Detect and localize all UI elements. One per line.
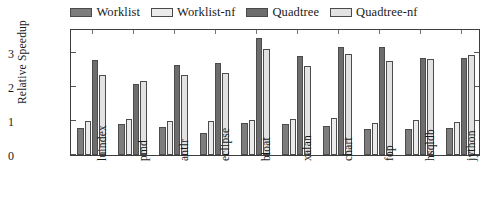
legend-swatch-icon [151,8,173,17]
y-axis-tick [71,52,76,53]
plot-area [71,30,479,155]
bar-antlr-worklist [159,127,166,155]
bar-jython-worklist [446,128,453,155]
x-axis-tick-label: antlr [178,139,190,161]
x-axis-tick-label: chart [342,137,354,161]
x-axis-tick-label: eclipse [219,128,231,161]
bar-eclipse-worklist-nf [208,121,215,155]
y-axis-tick [474,86,479,87]
x-axis-tick [379,30,380,34]
x-axis-tick [461,30,462,34]
bar-luindex-worklist [77,128,84,155]
x-axis-tick-label: bloat [260,137,272,161]
bar-fop-worklist [364,129,371,155]
bar-eclipse-worklist [200,133,207,155]
x-axis-tick [174,30,175,34]
bar-fop-worklist-nf [372,123,379,155]
x-axis-tick [420,30,421,34]
y-axis-tick [71,154,76,155]
bar-chart-worklist-nf [331,118,338,155]
legend-entry: Quadtree [246,6,319,19]
x-axis-tick [338,30,339,34]
bar-xalan-worklist [282,124,289,155]
bar-pmd-worklist-nf [126,119,133,155]
x-axis-tick-label: jython [465,130,477,161]
y-axis-tick [474,52,479,53]
bar-bloat-worklist-nf [249,120,256,155]
y-axis-title: Relative Speedup [16,7,28,117]
y-axis-tick-label: 0 [0,150,14,162]
legend-entry: Worklist [70,6,140,19]
y-axis-tick-label: 1 [0,116,14,128]
bar-pmd-worklist [118,124,125,155]
x-axis-tick-label: hsqldb [424,129,436,161]
bar-xalan-worklist-nf [290,119,297,155]
x-axis-tick-label: fop [383,145,395,161]
y-axis-tick-label: 2 [0,82,14,94]
legend-swatch-icon [330,8,352,17]
x-axis-tick-label: xalan [301,135,313,161]
y-axis-tick [474,120,479,121]
x-axis-tick-label: luindex [96,125,108,161]
x-axis-tick [215,30,216,34]
y-axis-tick-label: 3 [0,48,14,60]
legend-entry: Quadtree-nf [330,6,417,19]
y-axis-tick [71,86,76,87]
x-axis-tick [256,30,257,34]
x-axis-tick [133,30,134,34]
legend-entry: Worklist-nf [151,6,235,19]
y-axis-tick [71,120,76,121]
bar-hsqldb-worklist-nf [413,120,420,155]
bar-luindex-worklist-nf [85,121,92,155]
x-axis-tick [297,30,298,34]
legend-label: Quadtree [272,6,319,19]
bar-fop-quadtree [379,47,386,155]
plot-frame [70,29,480,156]
x-axis-tick [92,30,93,34]
bar-fop-quadtree-nf [386,61,393,155]
bar-chart-figure: WorklistWorklist-nfQuadtreeQuadtree-nf R… [0,0,488,222]
bar-hsqldb-worklist [405,129,412,155]
bar-jython-worklist-nf [454,122,461,155]
x-axis-tick-label: pmd [137,140,149,161]
bar-chart-worklist [323,126,330,155]
legend-swatch-icon [246,8,268,17]
bar-antlr-worklist-nf [167,121,174,155]
legend-swatch-icon [70,8,92,17]
legend-label: Worklist [96,6,140,19]
bar-bloat-worklist [241,123,248,155]
legend-label: Worklist-nf [177,6,235,19]
chart-legend: WorklistWorklist-nfQuadtreeQuadtree-nf [0,4,488,20]
legend-label: Quadtree-nf [356,6,417,19]
